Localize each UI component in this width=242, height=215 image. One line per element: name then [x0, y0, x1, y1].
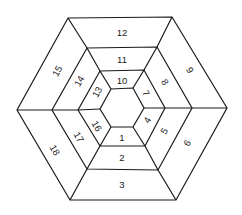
segment-label-13: 13	[90, 85, 105, 100]
segment-label-5: 5	[158, 126, 170, 136]
segment-label-16: 16	[90, 119, 105, 134]
segment-label-12: 12	[117, 27, 128, 38]
hexagon-diagram: 123456789101112131415161718	[0, 0, 242, 215]
segment-label-4: 4	[141, 115, 153, 125]
segment-label-9: 9	[184, 65, 196, 75]
segment-label-8: 8	[159, 77, 171, 87]
segment-label-10: 10	[117, 75, 128, 86]
segment-label-2: 2	[119, 152, 124, 163]
segment-label-1: 1	[119, 132, 124, 143]
segment-label-14: 14	[72, 74, 87, 89]
segment-label-6: 6	[181, 138, 193, 148]
hexagon-spokes	[17, 17, 227, 200]
segment-label-11: 11	[117, 54, 127, 65]
spoke-line	[133, 127, 176, 200]
segment-label-3: 3	[119, 179, 124, 190]
spoke-line	[17, 109, 100, 110]
segment-label-15: 15	[50, 64, 65, 79]
segment-label-17: 17	[72, 130, 87, 145]
hexagon-ring-inner	[100, 88, 144, 127]
segment-label-7: 7	[140, 88, 152, 98]
segment-label-18: 18	[48, 143, 63, 158]
